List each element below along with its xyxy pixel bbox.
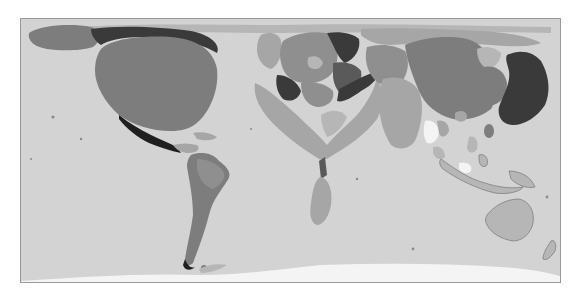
region-taiwan: [484, 124, 494, 138]
region-south-africa: [310, 177, 331, 225]
island-pacific-1: [80, 138, 82, 140]
region-malaysia: [433, 146, 445, 159]
region-antarctica: [21, 264, 561, 283]
region-borneo: [459, 162, 471, 173]
cartogram-map: [20, 18, 561, 283]
region-usa: [95, 37, 217, 132]
island-indian-1: [356, 178, 358, 180]
region-china-east: [455, 111, 467, 122]
island-pacific-3: [546, 196, 549, 199]
region-india: [379, 78, 422, 149]
island-hawaii: [51, 115, 54, 118]
region-philippines: [467, 137, 478, 153]
region-australia: [486, 199, 534, 241]
island-atlantic-1: [250, 128, 252, 130]
region-sulawesi: [479, 155, 488, 167]
region-png: [509, 171, 535, 188]
region-vietnam-area: [437, 120, 449, 136]
region-thailand: [424, 120, 439, 143]
region-mediterranean-south: [301, 82, 333, 107]
island-indian-2: [412, 248, 415, 251]
region-madagascar-connector: [319, 157, 327, 179]
region-new-zealand: [543, 241, 556, 260]
region-caribbean: [193, 132, 217, 140]
region-uk-ireland: [257, 33, 282, 69]
island-pacific-2: [30, 158, 32, 160]
map-canvas: [21, 19, 561, 283]
region-alaska: [29, 25, 100, 50]
